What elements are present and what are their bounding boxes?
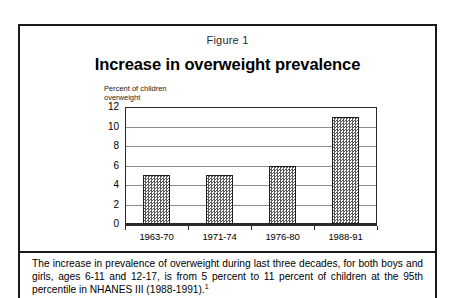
bar-slot bbox=[125, 107, 188, 224]
y-tick-label: 2 bbox=[113, 200, 119, 210]
y-axis-ticks: 024681012 bbox=[104, 107, 122, 224]
y-tick-label: 0 bbox=[113, 219, 119, 229]
bar-slot bbox=[314, 107, 377, 224]
x-tick-mark bbox=[125, 226, 126, 230]
bar-slot bbox=[251, 107, 314, 224]
x-tick-mark bbox=[251, 226, 252, 230]
caption-footnote-marker: 1 bbox=[205, 283, 209, 290]
bar-slot bbox=[188, 107, 251, 224]
caption-text: The increase in prevalence of overweight… bbox=[32, 258, 423, 295]
y-axis-label: Percent of children overweight bbox=[104, 84, 167, 102]
y-tick-label: 8 bbox=[113, 141, 119, 151]
x-tick-mark bbox=[377, 226, 378, 230]
bar[interactable] bbox=[269, 166, 297, 225]
figure-box: Figure 1 Increase in overweight prevalen… bbox=[18, 24, 437, 298]
y-tick-label: 4 bbox=[113, 180, 119, 190]
y-tick-label: 12 bbox=[108, 102, 119, 112]
figure-label: Figure 1 bbox=[20, 34, 435, 46]
y-tick-label: 10 bbox=[108, 122, 119, 132]
x-axis-labels: 1963-701971-741976-801988-91 bbox=[125, 231, 377, 242]
bars-layer bbox=[125, 107, 377, 224]
x-axis-label: 1971-74 bbox=[188, 231, 251, 242]
bar[interactable] bbox=[143, 175, 171, 224]
chart-title: Increase in overweight prevalence bbox=[20, 55, 435, 74]
x-axis-label: 1988-91 bbox=[314, 231, 377, 242]
caption-divider bbox=[20, 251, 435, 253]
y-tick-label: 6 bbox=[113, 161, 119, 171]
x-axis-label: 1963-70 bbox=[125, 231, 188, 242]
x-tick-mark bbox=[188, 226, 189, 230]
x-tick-mark bbox=[314, 226, 315, 230]
x-axis-label: 1976-80 bbox=[251, 231, 314, 242]
bar[interactable] bbox=[332, 117, 360, 224]
plot-area: 024681012 1963-701971-741976-801988-91 bbox=[104, 107, 377, 238]
bar[interactable] bbox=[206, 175, 234, 224]
figure-caption: The increase in prevalence of overweight… bbox=[32, 257, 423, 297]
